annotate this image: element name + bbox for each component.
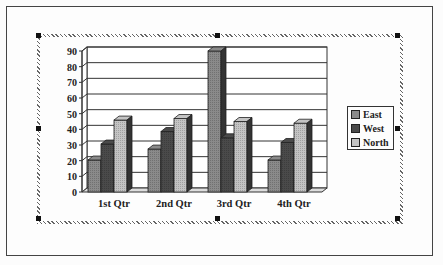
svg-text:30: 30: [67, 140, 77, 151]
svg-text:50: 50: [67, 109, 77, 120]
svg-text:20: 20: [67, 156, 77, 167]
svg-text:70: 70: [67, 77, 77, 88]
legend-item-north: North: [348, 135, 393, 149]
legend: East West North: [347, 106, 394, 150]
svg-text:10: 10: [67, 171, 77, 182]
legend-item-east: East: [348, 107, 393, 121]
bar-north-4: [294, 119, 312, 192]
svg-text:3rd Qtr: 3rd Qtr: [217, 198, 252, 209]
svg-text:60: 60: [67, 93, 77, 104]
svg-text:80: 80: [67, 62, 77, 73]
legend-swatch-north: [351, 138, 360, 147]
x-axis: 1st Qtr2nd Qtr3rd Qtr4th Qtr: [98, 198, 311, 209]
bar-north-2: [174, 115, 192, 192]
svg-text:90: 90: [67, 46, 77, 57]
bar-north-1: [114, 116, 132, 192]
svg-text:4th Qtr: 4th Qtr: [277, 198, 311, 209]
svg-text:0: 0: [72, 187, 77, 198]
legend-swatch-east: [351, 110, 360, 119]
svg-text:40: 40: [67, 124, 77, 135]
svg-text:2nd Qtr: 2nd Qtr: [156, 198, 192, 209]
legend-swatch-west: [351, 124, 360, 133]
y-axis: 0102030405060708090: [67, 46, 82, 198]
svg-text:1st Qtr: 1st Qtr: [98, 198, 130, 209]
bar-north-3: [234, 118, 252, 193]
legend-item-west: West: [348, 121, 393, 135]
